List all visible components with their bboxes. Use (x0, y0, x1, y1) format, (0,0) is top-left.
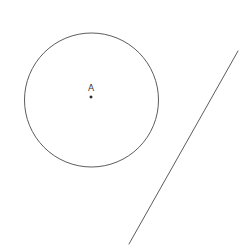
label-A: A (88, 83, 95, 93)
circle-A (25, 33, 159, 167)
line-segment (129, 51, 238, 244)
figure-canvas: A (0, 0, 248, 249)
point-A (90, 96, 92, 98)
geometry-figure-svg: A (0, 0, 248, 249)
